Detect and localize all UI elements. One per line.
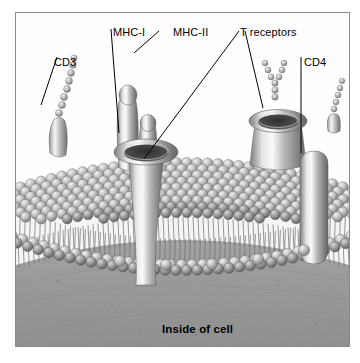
membrane-diagram-figure: CD3 MHC-I MHC-II T receptors CD4 Inside … xyxy=(0,0,360,363)
label-t-receptors: T receptors xyxy=(240,27,297,38)
label-inside-of-cell: Inside of cell xyxy=(162,324,233,335)
label-cd4: CD4 xyxy=(304,57,326,68)
illustration-panel: CD3 MHC-I MHC-II T receptors CD4 Inside … xyxy=(15,12,350,347)
label-cd3: CD3 xyxy=(54,57,76,68)
label-mhc-ii: MHC-II xyxy=(173,27,208,38)
label-mhc-i: MHC-I xyxy=(113,27,145,38)
